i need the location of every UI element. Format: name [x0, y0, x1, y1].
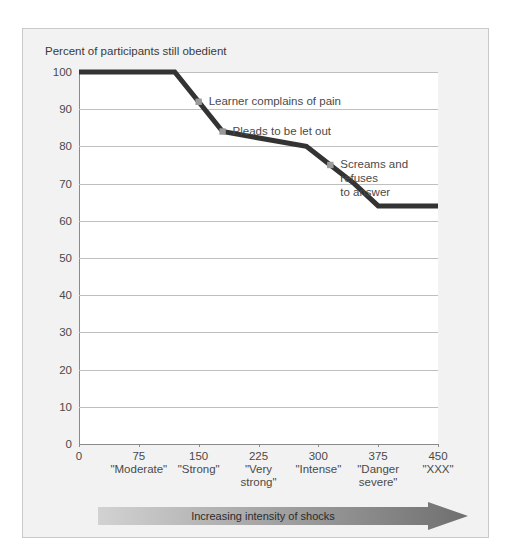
x-tick-mark-450: [438, 444, 439, 447]
x-tick-label-75: 75 "Moderate": [110, 450, 167, 476]
x-tick-label-225: 225 "Very strong": [240, 450, 276, 489]
y-tick-label-70: 70: [59, 178, 72, 190]
y-tick-label-90: 90: [59, 103, 72, 115]
x-tick-mark-0: [79, 444, 80, 447]
x-tick-mark-225: [259, 444, 260, 447]
annotation-label-1: Pleads to be let out: [233, 124, 331, 138]
y-tick-label-50: 50: [59, 252, 72, 264]
x-tick-label-0: 0: [76, 450, 82, 463]
y-tick-label-10: 10: [59, 401, 72, 413]
annotation-marker-2: [327, 162, 333, 168]
figure-panel: Percent of participants still obedient 0…: [22, 28, 489, 538]
annotation-marker-1: [219, 128, 225, 134]
y-tick-label-20: 20: [59, 364, 72, 376]
intensity-arrow: Increasing intensity of shocks: [98, 502, 468, 530]
x-tick-mark-300: [318, 444, 319, 447]
y-tick-label-60: 60: [59, 215, 72, 227]
x-tick-mark-75: [139, 444, 140, 447]
chart-title: Percent of participants still obedient: [45, 45, 227, 57]
x-tick-label-375: 375 "Danger severe": [357, 450, 399, 489]
x-tick-label-450: 450 "XXX": [422, 450, 453, 476]
y-tick-label-100: 100: [53, 66, 72, 78]
y-tick-label-30: 30: [59, 326, 72, 338]
arrow-label: Increasing intensity of shocks: [98, 502, 428, 530]
plot-area: 0102030405060708090100 075 "Moderate"150…: [79, 72, 438, 444]
y-tick-label-80: 80: [59, 140, 72, 152]
y-tick-label-40: 40: [59, 289, 72, 301]
x-tick-mark-375: [378, 444, 379, 447]
x-tick-label-150: 150 "Strong": [178, 450, 220, 476]
annotation-marker-0: [195, 99, 201, 105]
annotation-label-2: Screams and refuses to answer: [340, 157, 438, 199]
annotation-label-0: Learner complains of pain: [209, 94, 341, 108]
x-tick-label-300: 300 "Intense": [295, 450, 341, 476]
y-tick-label-0: 0: [66, 438, 72, 450]
x-tick-mark-150: [199, 444, 200, 447]
